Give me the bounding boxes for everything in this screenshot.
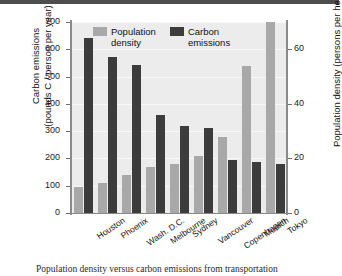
left-axis-tick-label: 500 — [45, 72, 60, 81]
bar-carbon-emissions — [204, 128, 213, 213]
legend-swatch-carbon-emissions — [170, 27, 184, 36]
bar-population-density — [266, 22, 275, 213]
bar-population-density — [242, 66, 251, 213]
left-axis-tick — [66, 49, 70, 50]
left-axis-tick — [66, 131, 70, 132]
left-axis-tick — [66, 186, 70, 187]
bar-carbon-emissions — [180, 126, 189, 213]
bar-population-density — [98, 183, 107, 213]
left-axis-title-line1: Carbon emissions — [30, 0, 42, 151]
bar-carbon-emissions — [276, 164, 285, 213]
left-axis-tick-label: 300 — [45, 126, 60, 135]
left-axis-tick-label: 200 — [45, 153, 60, 162]
bar-population-density — [146, 167, 155, 213]
gridline — [71, 77, 287, 78]
legend-label-pop-line1: Population — [111, 26, 156, 37]
left-axis-tick — [66, 104, 70, 105]
bar-population-density — [218, 137, 227, 213]
bar-carbon-emissions — [84, 38, 93, 213]
left-axis-tick-label: 0 — [55, 208, 60, 217]
gridline — [71, 49, 287, 50]
legend-label-pop-line2: density — [111, 37, 141, 48]
bar-population-density — [74, 187, 83, 213]
bottom-axis-line — [70, 213, 288, 214]
left-axis-tick — [66, 213, 70, 214]
gridline — [71, 22, 287, 23]
right-axis-tick — [288, 49, 292, 50]
bar-carbon-emissions — [252, 162, 261, 213]
left-axis-tick — [66, 77, 70, 78]
gridline — [71, 158, 287, 159]
legend-label-carb-line2: emissions — [188, 37, 230, 48]
legend-label-population-density: Population density — [111, 26, 156, 48]
legend-item-population-density: Population density — [93, 26, 156, 48]
gridline — [71, 131, 287, 132]
gridline — [71, 104, 287, 105]
bar-carbon-emissions — [228, 160, 237, 213]
left-axis-tick-label: 700 — [45, 17, 60, 26]
bar-carbon-emissions — [132, 65, 141, 213]
bar-population-density — [194, 156, 203, 213]
bar-carbon-emissions — [108, 57, 117, 213]
legend-label-carb-line1: Carbon — [188, 26, 219, 37]
bar-population-density — [170, 164, 179, 213]
right-axis-tick-label: 20 — [294, 153, 304, 162]
right-axis-tick — [288, 213, 292, 214]
right-axis-tick — [288, 104, 292, 105]
right-axis-tick — [288, 158, 292, 159]
right-axis-tick-label: 40 — [294, 99, 304, 108]
left-axis-line — [70, 20, 72, 215]
right-axis-title: Population density (persons per hectare) — [331, 0, 342, 157]
legend-swatch-population-density — [93, 27, 107, 36]
right-axis-tick-label: 60 — [294, 44, 304, 53]
bar-population-density — [122, 175, 131, 213]
right-axis-tick-label: 0 — [294, 208, 299, 217]
category-label: Tokyo — [286, 216, 309, 236]
chart-legend: Population density Carbon emissions — [93, 26, 230, 48]
legend-label-carbon-emissions: Carbon emissions — [188, 26, 230, 48]
left-axis-tick — [66, 158, 70, 159]
left-axis-tick — [66, 22, 70, 23]
legend-item-carbon-emissions: Carbon emissions — [170, 26, 230, 48]
left-axis-tick-label: 600 — [45, 44, 60, 53]
bar-carbon-emissions — [156, 115, 165, 213]
left-axis-tick-label: 100 — [45, 181, 60, 190]
figure-caption: Population density versus carbon emissio… — [36, 264, 336, 274]
left-axis-tick-label: 400 — [45, 99, 60, 108]
